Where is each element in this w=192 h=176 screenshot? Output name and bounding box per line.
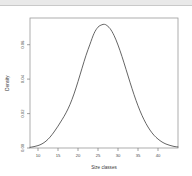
x-axis-ticks: [38, 148, 158, 151]
x-tick-label: 20: [76, 153, 81, 158]
plot-panel-background: [30, 18, 178, 148]
y-tick-label: 0.04: [20, 74, 25, 83]
density-plot-figure: 0.00 0.02 0.04 0.06 10 15 20 25 30 35 40…: [0, 0, 192, 176]
x-tick-label: 40: [156, 153, 161, 158]
x-tick-label: 10: [36, 153, 41, 158]
chart-canvas: 0.00 0.02 0.04 0.06 10 15 20 25 30 35 40…: [0, 0, 192, 176]
x-tick-label: 35: [136, 153, 141, 158]
x-tick-label: 15: [56, 153, 61, 158]
y-tick-label: 0.06: [20, 40, 25, 49]
y-axis-ticks: [27, 45, 30, 148]
x-tick-label: 25: [96, 153, 101, 158]
y-tick-label: 0.02: [20, 109, 25, 118]
x-tick-label: 30: [116, 153, 121, 158]
y-tick-label: 0.00: [20, 143, 25, 152]
x-axis-tick-labels: 10 15 20 25 30 35 40: [36, 153, 161, 158]
y-axis-title: Density: [5, 75, 10, 91]
x-axis-title: Size classes: [91, 165, 117, 170]
y-axis-tick-labels: 0.00 0.02 0.04 0.06: [20, 40, 25, 152]
